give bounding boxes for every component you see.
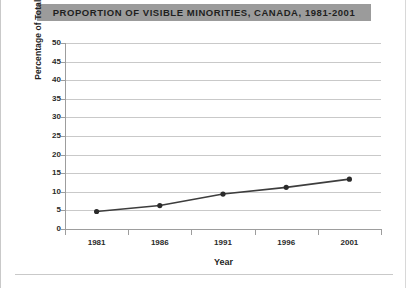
y-tick-label: 30 bbox=[52, 113, 61, 121]
chart-title: PROPORTION OF VISIBLE MINORITIES, CANADA… bbox=[53, 8, 356, 18]
x-tick-mark bbox=[255, 230, 256, 235]
data-point bbox=[220, 191, 225, 196]
data-point bbox=[347, 177, 352, 182]
x-axis-tick-labels: 19811986199119962001 bbox=[65, 239, 382, 251]
y-tick-label: 5 bbox=[57, 206, 61, 214]
y-axis-title-wrap: Percentage of Total Population (%) bbox=[17, 44, 31, 230]
y-axis-title: Percentage of Total Population (%) bbox=[31, 0, 45, 101]
x-tick-mark bbox=[65, 230, 66, 235]
x-tick-mark bbox=[191, 230, 192, 235]
bottom-divider bbox=[15, 274, 393, 275]
data-series bbox=[65, 43, 381, 229]
x-tick-label: 1981 bbox=[88, 239, 106, 247]
y-tick-label: 15 bbox=[52, 169, 61, 177]
y-tick-label: 35 bbox=[52, 95, 61, 103]
data-point bbox=[94, 209, 99, 214]
x-tick-label: 1991 bbox=[214, 239, 232, 247]
y-tick-label: 40 bbox=[52, 76, 61, 84]
chart-figure: PROPORTION OF VISIBLE MINORITIES, CANADA… bbox=[0, 0, 406, 288]
x-axis-tick-marks bbox=[65, 230, 382, 236]
y-tick-label: 20 bbox=[52, 151, 61, 159]
x-tick-label: 2001 bbox=[340, 239, 358, 247]
x-tick-label: 1986 bbox=[151, 239, 169, 247]
x-tick-mark bbox=[128, 230, 129, 235]
x-tick-label: 1996 bbox=[277, 239, 295, 247]
y-tick-label: 25 bbox=[52, 132, 61, 140]
x-tick-mark bbox=[381, 230, 382, 235]
y-tick-label: 10 bbox=[52, 188, 61, 196]
x-tick-mark bbox=[318, 230, 319, 235]
y-tick-label: 45 bbox=[52, 58, 61, 66]
data-point bbox=[284, 185, 289, 190]
chart-title-band: PROPORTION OF VISIBLE MINORITIES, CANADA… bbox=[37, 4, 371, 21]
x-axis-title: Year bbox=[65, 258, 382, 267]
data-point bbox=[157, 203, 162, 208]
y-tick-label: 50 bbox=[52, 39, 61, 47]
y-tick-label: 0 bbox=[57, 225, 61, 233]
